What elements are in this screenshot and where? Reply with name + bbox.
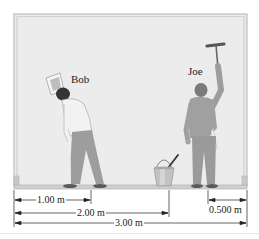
dimension-3m-label: 3.00 m — [114, 218, 144, 228]
diagram-scaffold: Bob Joe 1.00 m 2.00 m 3.00 m 0.500 m — [0, 0, 259, 239]
bottom-divider — [0, 233, 259, 234]
dimension-2m-label: 2.00 m — [76, 208, 106, 218]
left-support — [14, 176, 19, 186]
bob-label: Bob — [71, 74, 89, 85]
right-support — [242, 176, 247, 186]
dimension-0-5m-label: 0.500 m — [208, 205, 243, 215]
joe-label: Joe — [188, 66, 203, 77]
dimension-1m-label: 1.00 m — [36, 195, 66, 205]
